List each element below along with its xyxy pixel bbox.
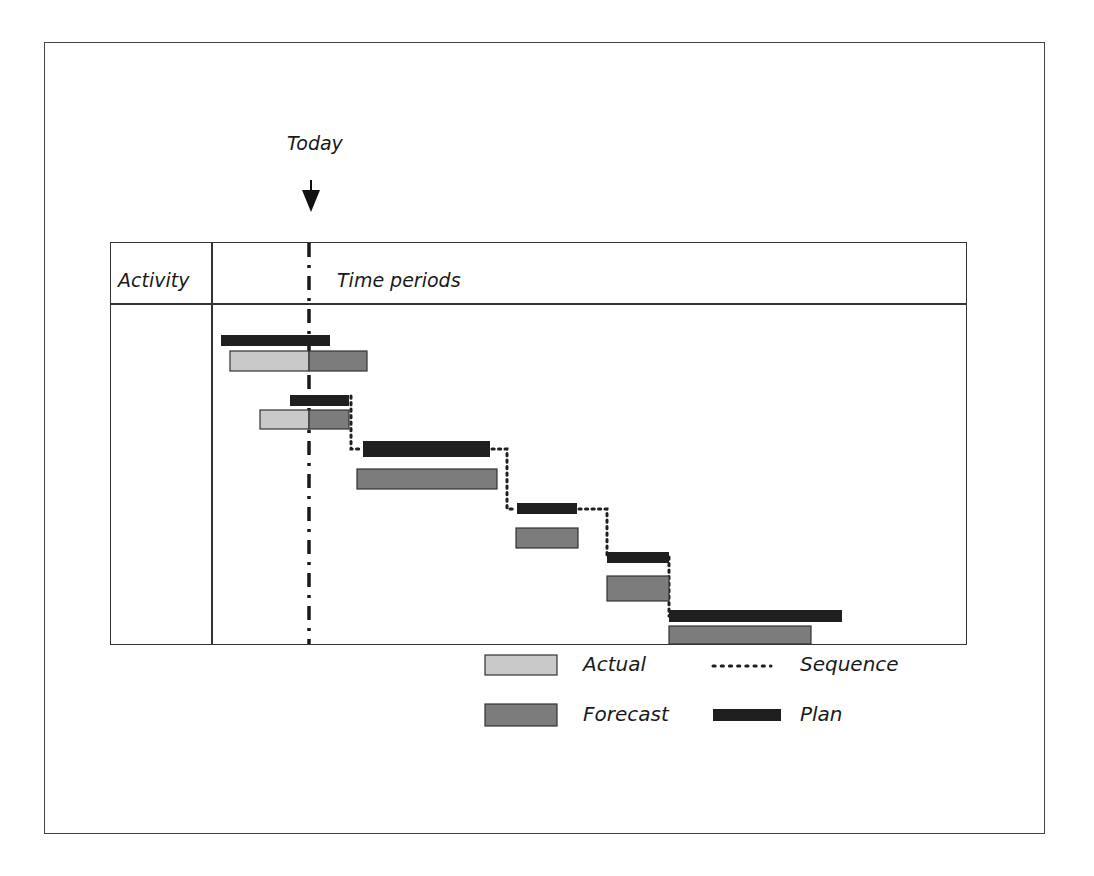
activity-row-5 (607, 552, 669, 601)
activity-row-3 (357, 441, 497, 489)
forecast-bar (309, 410, 349, 429)
legend-forecast-label: Forecast (583, 702, 669, 726)
plan-bar (669, 610, 842, 622)
forecast-bar (669, 626, 811, 644)
forecast-bar (309, 351, 367, 371)
sequence-link-4-5 (579, 509, 607, 556)
activity-row-6 (669, 610, 842, 644)
activity-row-1 (221, 335, 367, 371)
activity-row-4 (516, 503, 578, 548)
legend-forecast-swatch (485, 704, 557, 726)
legend-actual-swatch (485, 655, 557, 675)
actual-bar (230, 351, 309, 371)
legend-actual-label: Actual (583, 652, 646, 676)
forecast-bar (357, 469, 497, 489)
actual-bar (260, 410, 309, 429)
forecast-bar (516, 528, 578, 548)
plan-bar (517, 503, 577, 514)
sequence-link-2-3 (351, 396, 362, 449)
legend-sequence-label: Sequence (800, 652, 899, 676)
legend-plan-label: Plan (800, 702, 843, 726)
forecast-bar (607, 576, 669, 601)
activity-row-2 (260, 395, 349, 429)
plan-bar (221, 335, 330, 346)
plan-bar (363, 441, 490, 457)
plan-bar (607, 552, 669, 563)
legend-plan-swatch (713, 709, 781, 721)
gantt-bars-layer (0, 0, 1094, 876)
plan-bar (290, 395, 349, 406)
